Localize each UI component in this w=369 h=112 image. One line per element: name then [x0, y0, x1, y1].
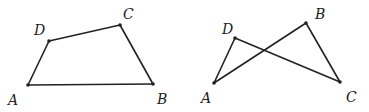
figure-convex-quadrilateral: ABCD [6, 6, 167, 108]
vertex-label-D: D [221, 21, 233, 37]
figure-crossed-quadrilateral: ABCD [199, 6, 357, 106]
vertex-label-B: B [314, 6, 325, 22]
segment-CD [49, 25, 120, 41]
vertex-A [212, 81, 216, 85]
segment-CB [306, 23, 340, 82]
vertex-label-D: D [33, 22, 45, 38]
segment-AB [28, 84, 153, 85]
segment-DA [28, 41, 49, 85]
segment-DC [235, 38, 340, 82]
vertex-B [151, 82, 155, 86]
vertex-D [233, 36, 237, 40]
geometry-diagram: ABCD ABCD [0, 0, 369, 112]
vertex-B [304, 21, 308, 25]
vertex-label-C: C [346, 89, 357, 105]
vertex-label-A: A [6, 92, 18, 108]
vertex-A [26, 83, 30, 87]
vertex-C [118, 23, 122, 27]
segment-BC [120, 25, 153, 84]
vertex-label-A: A [199, 90, 211, 106]
vertex-D [47, 39, 51, 43]
vertex-label-B: B [156, 91, 167, 107]
vertex-label-C: C [123, 6, 134, 22]
vertex-C [338, 80, 342, 84]
